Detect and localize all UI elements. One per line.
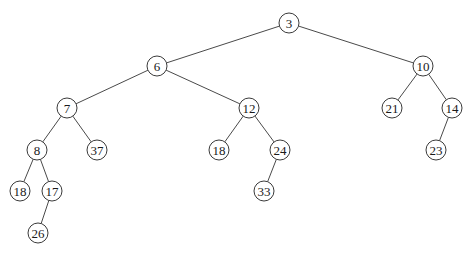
- edge-8-17: [40, 159, 48, 181]
- node-label: 37: [91, 143, 105, 158]
- tree-node-21: 21: [382, 98, 402, 118]
- tree-node-18: 18: [209, 140, 229, 160]
- edge-14-23: [440, 117, 449, 140]
- tree-node-26: 26: [28, 223, 48, 243]
- tree-node-7: 7: [57, 98, 77, 118]
- node-label: 6: [154, 59, 161, 74]
- tree-node-10: 10: [413, 56, 433, 76]
- tree-node-33: 33: [254, 181, 274, 201]
- edge-3-6: [167, 26, 280, 63]
- edge-8-18: [24, 159, 33, 182]
- tree-node-6: 6: [147, 56, 167, 76]
- node-label: 3: [286, 16, 293, 31]
- node-label: 8: [34, 143, 41, 158]
- binary-tree-diagram: 3610712211483718242318173326: [0, 0, 473, 257]
- node-label: 33: [258, 184, 271, 199]
- node-label: 21: [386, 101, 399, 116]
- edge-7-8: [43, 116, 61, 142]
- node-label: 12: [243, 101, 256, 116]
- edge-10-14: [429, 74, 447, 100]
- tree-node-17: 17: [42, 181, 62, 201]
- edge-24-33: [268, 159, 277, 181]
- edge-12-18: [225, 116, 243, 142]
- tree-node-12: 12: [239, 98, 259, 118]
- edge-17-26: [41, 200, 49, 223]
- tree-edges: [24, 26, 449, 223]
- tree-node-8: 8: [27, 140, 47, 160]
- tree-node-37: 37: [87, 140, 107, 160]
- edge-7-37: [73, 116, 91, 142]
- node-label: 10: [417, 59, 430, 74]
- edge-3-10: [299, 26, 414, 63]
- edge-6-7: [76, 70, 148, 104]
- tree-node-24: 24: [270, 140, 290, 160]
- tree-nodes: 3610712211483718242318173326: [10, 13, 462, 243]
- edge-6-12: [166, 70, 240, 104]
- node-label: 23: [430, 143, 443, 158]
- edge-10-21: [398, 74, 417, 100]
- node-label: 14: [446, 101, 460, 116]
- tree-node-18: 18: [10, 181, 30, 201]
- tree-node-14: 14: [442, 98, 462, 118]
- tree-node-3: 3: [279, 13, 299, 33]
- node-label: 17: [46, 184, 60, 199]
- node-label: 7: [64, 101, 71, 116]
- node-label: 18: [14, 184, 27, 199]
- tree-node-23: 23: [426, 140, 446, 160]
- node-label: 24: [274, 143, 288, 158]
- node-label: 26: [32, 226, 46, 241]
- node-label: 18: [213, 143, 226, 158]
- edge-12-24: [255, 116, 274, 142]
